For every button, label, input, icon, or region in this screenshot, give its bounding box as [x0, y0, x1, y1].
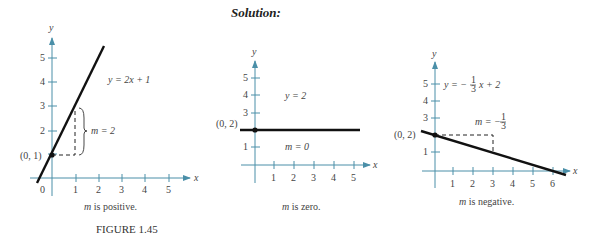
- slope-label: m = 2: [91, 125, 115, 136]
- y-ticks: 2 3 4 5: [40, 52, 57, 154]
- svg-text:3: 3: [471, 83, 476, 94]
- x-ticks: 1 2 3 4 5 0: [40, 174, 171, 195]
- svg-text:3: 3: [40, 100, 45, 111]
- svg-text:1: 1: [243, 141, 248, 152]
- graph-negative-slope: y x 1 2 3 4 5 6 1 3 4 5 (0, 2) y = − 1: [394, 48, 578, 207]
- svg-text:4: 4: [331, 172, 336, 183]
- caption: m is positive.: [84, 201, 137, 212]
- y-ticks: 1 3 4 5: [243, 72, 260, 152]
- slope-label: m = − 1 3: [475, 111, 506, 131]
- svg-text:1: 1: [271, 172, 276, 183]
- svg-text:5: 5: [166, 184, 171, 195]
- point-label: (0, 2): [394, 129, 416, 141]
- origin-label: 0: [40, 184, 45, 195]
- y-axis-label: y: [431, 48, 437, 59]
- line-y-2x-plus-1: [37, 46, 104, 183]
- svg-text:3: 3: [119, 184, 124, 195]
- svg-text:5: 5: [40, 52, 45, 63]
- svg-text:4: 4: [142, 184, 147, 195]
- svg-text:3: 3: [311, 172, 316, 183]
- equation-label: y = − 1 3 x + 2: [443, 74, 500, 94]
- x-axis-label: x: [572, 165, 578, 176]
- svg-text:3: 3: [243, 107, 248, 118]
- caption: m is negative.: [459, 196, 514, 207]
- x-ticks: 1 2 3 4 5: [271, 161, 356, 183]
- svg-text:6: 6: [550, 178, 555, 189]
- y-intercept-point: [432, 132, 437, 137]
- x-axis-label: x: [372, 159, 378, 170]
- svg-text:3: 3: [423, 112, 428, 123]
- svg-text:2: 2: [470, 178, 475, 189]
- figure-canvas: Solution: y x 1 2 3 4 5 0 2 3 4 5: [0, 0, 599, 236]
- x-ticks: 1 2 3 4 5 6: [450, 167, 555, 189]
- svg-text:2: 2: [96, 184, 101, 195]
- svg-text:5: 5: [243, 72, 248, 83]
- svg-text:3: 3: [501, 120, 506, 131]
- svg-text:5: 5: [351, 172, 356, 183]
- slope-label: m = 0: [285, 141, 309, 152]
- svg-text:1: 1: [450, 178, 455, 189]
- svg-text:y = −: y = −: [443, 79, 467, 90]
- graph-zero-slope: y x 1 2 3 4 5 1 3 4 5 (0, 2) y = 2 m = 0…: [216, 46, 378, 212]
- svg-text:1: 1: [73, 184, 78, 195]
- y-ticks: 1 3 4 5: [423, 78, 440, 157]
- figure-label: FIGURE 1.45: [96, 223, 158, 235]
- equation-label: y = 2x + 1: [107, 74, 150, 85]
- svg-text:5: 5: [530, 178, 535, 189]
- svg-text:x + 2: x + 2: [478, 79, 500, 90]
- graph-positive-slope: y x 1 2 3 4 5 0 2 3 4 5 (0, 1) m = 2: [20, 22, 199, 235]
- solution-heading: Solution:: [231, 5, 281, 20]
- svg-text:m = −: m = −: [475, 116, 501, 127]
- svg-text:4: 4: [423, 95, 428, 106]
- y-intercept-point: [49, 152, 54, 157]
- caption: m is zero.: [282, 201, 321, 212]
- svg-text:1: 1: [423, 146, 428, 157]
- y-axis-label: y: [251, 46, 257, 57]
- svg-text:3: 3: [490, 178, 495, 189]
- svg-text:2: 2: [291, 172, 296, 183]
- point-label: (0, 1): [20, 150, 42, 162]
- y-intercept-point: [252, 127, 257, 132]
- svg-text:4: 4: [243, 89, 248, 100]
- svg-text:4: 4: [510, 178, 515, 189]
- svg-text:4: 4: [40, 76, 45, 87]
- point-label: (0, 2): [216, 118, 238, 130]
- svg-text:2: 2: [40, 125, 45, 136]
- slope-brace: [79, 108, 87, 155]
- equation-label: y = 2: [284, 90, 306, 101]
- x-axis-label: x: [193, 172, 199, 183]
- svg-text:5: 5: [423, 78, 428, 89]
- y-axis-label: y: [48, 22, 54, 33]
